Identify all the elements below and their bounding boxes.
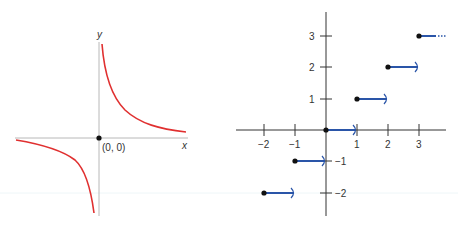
x-tick-label: 2 [385,139,391,150]
closed-endpoints [261,33,421,195]
y-tick-label: −1 [335,156,347,167]
x-tick-label: 1 [354,139,360,150]
x-tick-label: 3 [416,139,422,150]
y-tick-label: 2 [309,62,315,73]
figure-canvas: y x (0, 0) −2 −1 1 2 3 3 2 1 −1 [0,0,458,228]
hyperbola-branch-positive [102,44,186,132]
x-tick-label: −2 [258,139,270,150]
step-segments [264,36,446,198]
origin-point [96,135,101,140]
x-tick-label: −1 [289,139,301,150]
y-tick-label: −2 [335,188,347,199]
origin-label: (0, 0) [102,142,125,153]
left-y-label: y [96,29,103,40]
hyperbola-chart: y x (0, 0) [15,29,188,216]
left-x-label: x [181,140,188,151]
y-tick-label: 3 [309,31,315,42]
hyperbola-branch-negative [16,140,94,213]
step-function-chart: −2 −1 1 2 3 3 2 1 −1 −2 [236,12,446,216]
y-tick-label: 1 [309,94,315,105]
